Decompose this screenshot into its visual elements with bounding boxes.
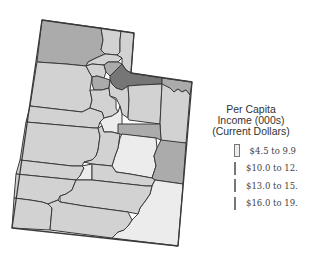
legend-title: Per Capita Income (000s) (Current Dollar…	[206, 104, 296, 137]
legend-label: $13.0 to 15.9	[246, 181, 298, 191]
legend-swatch-class-4	[234, 197, 236, 210]
legend: Per Capita Income (000s) (Current Dollar…	[206, 104, 296, 212]
county-north-central	[101, 28, 121, 55]
legend-item-class-4: $16.0 to 19.9	[234, 195, 296, 213]
county-central-c	[92, 76, 110, 90]
legend-swatch-class-2	[234, 162, 236, 175]
legend-items: $4.5 to 9.9 $10.0 to 12.9 $13.0 to 15.9 …	[234, 142, 296, 212]
legend-item-class-2: $10.0 to 12.9	[234, 160, 296, 178]
county-east-upper	[128, 84, 162, 124]
legend-label: $4.5 to 9.9	[250, 146, 296, 156]
county-millard	[20, 122, 100, 166]
legend-label: $10.0 to 12.9	[246, 163, 298, 173]
legend-swatch-class-1	[234, 144, 240, 157]
legend-item-class-1: $4.5 to 9.9	[234, 142, 296, 160]
county-west	[30, 62, 92, 112]
legend-swatch-class-3	[234, 179, 236, 192]
county-far-east	[160, 84, 190, 143]
legend-item-class-3: $13.0 to 15.9	[234, 177, 296, 195]
legend-label: $16.0 to 19.9	[246, 198, 298, 208]
legend-title-line-3: (Current Dollars)	[206, 126, 296, 137]
